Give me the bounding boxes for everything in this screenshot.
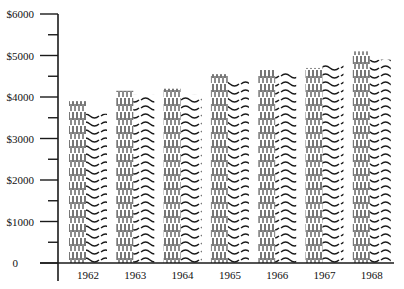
y-tick-label: $2000 [0, 174, 34, 186]
y-tick-label: 0 [0, 257, 18, 269]
y-tick-label: $6000 [0, 8, 34, 20]
bar-1964-series-b [181, 95, 202, 263]
bar-1966-series-a [258, 70, 275, 263]
bar-1962-series-a [69, 101, 86, 263]
y-tick-label: $1000 [0, 216, 34, 228]
y-tick-label: $5000 [0, 50, 34, 62]
y-tick-label: $4000 [0, 91, 34, 103]
x-tick-label: 1965 [210, 269, 250, 281]
bar-1968-series-a [353, 51, 370, 263]
bar-1965-series-a [211, 74, 228, 263]
x-tick-label: 1963 [115, 269, 155, 281]
x-tick-label: 1968 [352, 269, 392, 281]
bar-1965-series-b [228, 80, 249, 263]
bar-1968-series-b [370, 60, 391, 263]
bar-1967-series-a [306, 68, 323, 263]
y-tick-label: $3000 [0, 133, 34, 145]
bar-1964-series-a [164, 89, 181, 263]
x-tick-label: 1967 [305, 269, 345, 281]
bar-1967-series-b [323, 64, 344, 263]
bar-1966-series-b [275, 72, 296, 263]
chart-canvas [0, 0, 404, 289]
bar-chart: 0$1000$2000$3000$4000$5000$6000 19621963… [0, 0, 404, 289]
x-tick-label: 1966 [257, 269, 297, 281]
bar-1963-series-a [116, 91, 133, 263]
x-tick-label: 1962 [68, 269, 108, 281]
x-tick-label: 1964 [163, 269, 203, 281]
bar-1963-series-b [133, 95, 154, 263]
bar-1962-series-b [86, 114, 107, 263]
